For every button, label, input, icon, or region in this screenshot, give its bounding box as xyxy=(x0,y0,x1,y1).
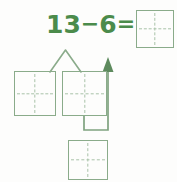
tens-box[interactable] xyxy=(14,71,56,116)
ones-box[interactable] xyxy=(62,71,107,116)
result-box[interactable] xyxy=(68,140,108,180)
arrow-up-icon xyxy=(103,57,114,72)
worksheet-canvas: 13−6= xyxy=(0,0,177,182)
answer-box[interactable] xyxy=(136,10,174,48)
equation-subtrahend: 6 xyxy=(99,10,116,39)
ones-box-hline xyxy=(65,93,104,94)
equation-operator: − xyxy=(81,11,99,36)
equation-expression: 13−6= xyxy=(46,12,135,37)
branch-icon xyxy=(50,50,81,72)
result-box-hline xyxy=(71,159,105,160)
answer-box-hline xyxy=(139,28,171,29)
equation-equals: = xyxy=(117,11,135,36)
tens-box-hline xyxy=(17,93,53,94)
equation-minuend: 13 xyxy=(46,10,81,39)
